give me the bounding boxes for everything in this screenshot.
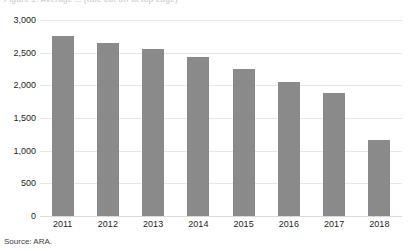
chart-figure: Figure 1. Average ... (title cut off at … <box>0 0 412 251</box>
x-axis-tick-label-2011: 2011 <box>41 220 85 229</box>
y-axis-tick-label: 2,500 <box>2 49 36 58</box>
x-axis-tick-label-2012: 2012 <box>86 220 130 229</box>
x-axis-tick-label-2018: 2018 <box>357 220 401 229</box>
x-axis-tick-label-2015: 2015 <box>222 220 266 229</box>
y-axis-labels: 05001,0001,5002,0002,5003,000 <box>0 0 36 232</box>
source-note: Source: ARA. <box>4 237 52 246</box>
y-axis-tick-label: 2,000 <box>2 81 36 90</box>
x-axis-tick-label-2017: 2017 <box>312 220 356 229</box>
y-axis-tick-label: 3,000 <box>2 16 36 25</box>
bar-chart-plot: 05001,0001,5002,0002,5003,000 2011201220… <box>0 0 412 232</box>
x-axis-tick-label-2014: 2014 <box>176 220 220 229</box>
y-axis-tick-label: 1,000 <box>2 147 36 156</box>
x-axis-labels: 20112012201320142015201620172018 <box>40 0 402 232</box>
y-axis-tick-label: 0 <box>2 212 36 221</box>
y-axis-tick-label: 1,500 <box>2 114 36 123</box>
x-axis-tick-label-2016: 2016 <box>267 220 311 229</box>
y-axis-tick-label: 500 <box>2 179 36 188</box>
x-axis-tick-label-2013: 2013 <box>131 220 175 229</box>
